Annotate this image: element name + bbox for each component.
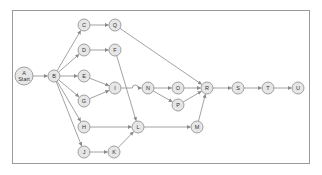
node-e: E: [78, 70, 90, 82]
node-h: H: [78, 121, 90, 133]
node-i: I: [109, 82, 121, 94]
edge-m-r: [198, 94, 205, 121]
node-s: S: [232, 82, 244, 94]
node-label: D: [82, 47, 86, 53]
node-label: U: [296, 85, 300, 91]
edge-b-h: [57, 81, 81, 121]
node-label: L: [136, 124, 139, 130]
node-label: J: [83, 149, 86, 155]
nodes-layer: AStartBCQDFEIGHLMJKNOPRSTU: [15, 19, 304, 158]
node-o: O: [172, 82, 184, 94]
edge-e-i: [90, 78, 109, 85]
node-p: P: [172, 99, 184, 111]
node-l: L: [132, 121, 144, 133]
node-m: M: [191, 121, 203, 133]
node-label: O: [176, 85, 181, 91]
node-j: J: [78, 146, 90, 158]
network-diagram: AStartBCQDFEIGHLMJKNOPRSTU: [0, 0, 322, 175]
edge-i-n: [121, 85, 142, 88]
node-u: U: [292, 82, 304, 94]
node-label: E: [82, 73, 86, 79]
node-f: F: [109, 44, 121, 56]
node-a: AStart: [15, 67, 33, 85]
edge-q-r: [120, 28, 202, 84]
edge-p-r: [183, 91, 201, 102]
node-n: N: [142, 82, 154, 94]
node-sublabel: Start: [18, 76, 30, 82]
edge-n-p: [153, 91, 172, 102]
node-g: G: [78, 95, 90, 107]
node-q: Q: [109, 19, 121, 31]
edge-b-c: [57, 31, 81, 71]
node-b: B: [48, 70, 60, 82]
node-label: S: [236, 85, 240, 91]
diagram-canvas: AStartBCQDFEIGHLMJKNOPRSTU: [0, 0, 322, 175]
edge-k-l: [118, 132, 133, 148]
node-label: P: [176, 102, 180, 108]
node-k: K: [108, 146, 120, 158]
node-label: Q: [113, 22, 118, 28]
edges-layer: [33, 25, 292, 152]
node-label: R: [205, 85, 209, 91]
node-label: N: [146, 85, 150, 91]
node-label: K: [112, 149, 116, 155]
node-t: T: [262, 82, 274, 94]
node-c: C: [78, 19, 90, 31]
node-label: G: [82, 98, 86, 104]
edge-b-j: [56, 82, 81, 146]
edge-g-i: [90, 91, 109, 99]
node-r: R: [201, 82, 213, 94]
node-label: M: [195, 124, 200, 130]
node-label: B: [52, 73, 56, 79]
node-label: H: [82, 124, 86, 130]
node-d: D: [78, 44, 90, 56]
node-label: C: [82, 22, 86, 28]
